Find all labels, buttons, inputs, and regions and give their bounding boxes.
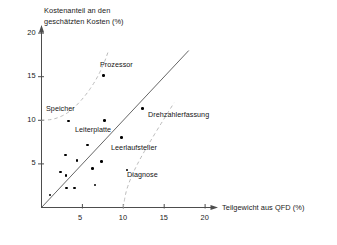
y-tick-label-15: 15: [22, 71, 36, 80]
data-point-leerlaufsteller: [120, 136, 123, 139]
annotation-drehzahlerfassung: Drehzahlerfassung: [148, 110, 209, 119]
data-point-leiterplatte: [100, 160, 103, 163]
annotation-leiterplatte: Leiterplatte: [75, 125, 111, 134]
annotation-speicher: Speicher: [46, 104, 75, 113]
annotation-prozessor: Prozessor: [100, 60, 133, 69]
annotation-leerlaufsteller: Leerlaufsteller: [111, 143, 157, 152]
diagonal-identity-line: [42, 51, 189, 208]
x-axis-arrowhead: [211, 205, 219, 210]
y-tick-label-20: 20: [22, 28, 36, 37]
data-point-prozessor: [102, 74, 105, 77]
annotation-diagnose: Diagnose: [127, 170, 158, 179]
x-tick-label-15: 15: [160, 213, 168, 222]
x-tick-label-5: 5: [78, 213, 82, 222]
data-point-12: [103, 119, 106, 122]
data-point-9: [91, 167, 94, 170]
x-tick-label-20: 20: [201, 213, 209, 222]
reference-line-group: [42, 51, 189, 208]
y-axis-title: Kostenanteil an den geschätzten Kosten (…: [44, 6, 124, 27]
y-tick-label-5: 5: [22, 158, 36, 167]
x-tick-label-10: 10: [119, 213, 127, 222]
x-axis-title: Teilgewicht aus QFD (%): [222, 203, 304, 214]
y-tick-label-10: 10: [22, 115, 36, 124]
data-point-4: [65, 187, 68, 190]
scatter-chart: Kostenanteil an den geschätzten Kosten (…: [0, 0, 337, 245]
data-point-drehzahlerfassung: [141, 107, 144, 110]
y-axis-title-line-1: Kostenanteil an den: [44, 6, 110, 15]
y-axis-title-line-2: geschätzten Kosten (%): [44, 17, 124, 26]
data-point-6: [73, 187, 76, 190]
